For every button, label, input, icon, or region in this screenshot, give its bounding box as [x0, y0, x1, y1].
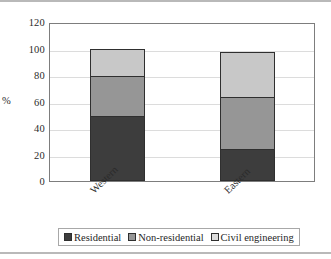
chart-legend: Residential Non-residential Civil engine…	[58, 228, 300, 246]
y-tick-40: 40	[3, 124, 45, 134]
bottom-divider	[0, 252, 331, 254]
legend-label-residential: Residential	[74, 232, 121, 243]
y-tick-20: 20	[3, 151, 45, 161]
legend-label-non-residential: Non-residential	[138, 232, 203, 243]
bar-segment-eastern-non-residential[interactable]	[220, 97, 275, 150]
y-tick-120: 120	[3, 18, 45, 28]
chart-screenshot: 120 100 80 60 40 20 0 % Western Eastern	[0, 0, 331, 259]
y-tick-0: 0	[3, 177, 45, 187]
bar-western[interactable]	[90, 49, 145, 181]
legend-label-civil-engineering: Civil engineering	[221, 232, 294, 243]
legend-item-non-residential[interactable]: Non-residential	[128, 232, 203, 243]
legend-item-residential[interactable]: Residential	[64, 232, 121, 243]
legend-item-civil-engineering[interactable]: Civil engineering	[211, 232, 294, 243]
bar-segment-western-non-residential[interactable]	[90, 76, 145, 117]
bar-segment-eastern-civil-engineering[interactable]	[220, 52, 275, 98]
y-tick-80: 80	[3, 71, 45, 81]
legend-swatch-icon-residential	[64, 233, 72, 241]
plot-area	[49, 23, 315, 182]
bar-segment-western-civil-engineering[interactable]	[90, 49, 145, 77]
y-tick-100: 100	[3, 45, 45, 55]
legend-swatch-icon-civil-engineering	[211, 233, 219, 241]
top-divider	[0, 0, 331, 2]
y-axis-title: %	[2, 96, 11, 106]
bar-eastern[interactable]	[220, 52, 275, 181]
legend-swatch-icon-non-residential	[128, 233, 136, 241]
